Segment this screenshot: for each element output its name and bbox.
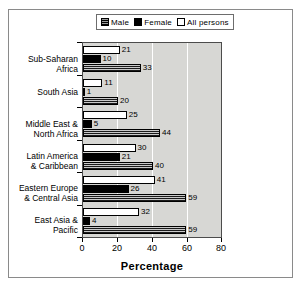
bar-value-male: 33 <box>141 63 152 73</box>
bar-row-female: 26 <box>83 185 221 193</box>
x-axis <box>82 238 222 242</box>
category-label-line: South Asia <box>37 87 78 97</box>
bar-row-female: 4 <box>83 217 221 225</box>
bar-value-male: 44 <box>160 128 171 138</box>
legend-entry-male: Male <box>101 18 129 27</box>
bar-row-male: 33 <box>83 64 221 72</box>
x-axis-tick-label-0: 0 <box>79 243 84 254</box>
bar-value-female: 10 <box>101 54 112 64</box>
x-axis-tick <box>221 238 222 242</box>
bar-male <box>83 162 153 170</box>
category-label-south-asia: South Asia <box>37 87 78 97</box>
bar-row-female: 5 <box>83 120 221 128</box>
category-label-latin-america-caribbean: Latin America & Caribbean <box>27 151 79 171</box>
bar-row-all-persons: 11 <box>83 79 221 87</box>
bar-row-male: 59 <box>83 226 221 234</box>
bar-male <box>83 129 160 137</box>
bar-row-all-persons: 32 <box>83 208 221 216</box>
x-axis-tick <box>82 238 83 242</box>
bar-chart-figure: Male Female All persons Sub-Saharan Afri… <box>0 0 302 288</box>
x-axis-tick-label-80: 80 <box>216 243 226 254</box>
legend-swatch-female-icon <box>134 18 142 26</box>
x-axis-tick <box>152 238 153 242</box>
bar-female <box>83 120 92 128</box>
bar-group-middle-east-north-africa: 25 5 44 <box>83 108 221 140</box>
legend-label-all-persons: All persons <box>187 18 229 27</box>
category-label-line: Pacific <box>35 225 78 235</box>
category-label-line: Latin America <box>27 151 79 161</box>
category-label-middle-east-north-africa: Middle East & North Africa <box>26 119 78 139</box>
bar-value-female: 4 <box>90 216 96 226</box>
bar-female <box>83 153 120 161</box>
bar-row-male: 40 <box>83 162 221 170</box>
bar-value-female: 1 <box>85 87 91 97</box>
category-label-line: Sub-Saharan <box>28 54 78 64</box>
bar-group-east-asia-pacific: 32 4 59 <box>83 205 221 237</box>
bar-row-male: 44 <box>83 129 221 137</box>
bar-value-female: 26 <box>129 184 140 194</box>
bar-value-all-persons: 25 <box>127 110 138 120</box>
bar-all-persons <box>83 144 136 152</box>
category-label-sub-saharan-africa: Sub-Saharan Africa <box>28 54 78 74</box>
bar-row-male: 59 <box>83 194 221 202</box>
category-label-line: Africa <box>28 64 78 74</box>
bar-row-female: 10 <box>83 55 221 63</box>
plot-area: 21 10 33 11 1 20 <box>82 42 222 238</box>
x-axis-tick-label-20: 20 <box>112 243 122 254</box>
bar-all-persons <box>83 176 155 184</box>
bar-value-female: 5 <box>92 119 98 129</box>
category-label-line: East Asia & <box>35 215 78 225</box>
bar-all-persons <box>83 79 102 87</box>
bar-all-persons <box>83 111 127 119</box>
bar-value-all-persons: 41 <box>155 175 166 185</box>
bar-all-persons <box>83 46 120 54</box>
bar-group-south-asia: 11 1 20 <box>83 75 221 108</box>
category-label-eastern-europe-central-asia: Eastern Europe & Central Asia <box>19 183 78 203</box>
bar-value-all-persons: 30 <box>136 143 147 153</box>
chart-legend: Male Female All persons <box>96 14 234 30</box>
legend-swatch-all-persons-icon <box>177 18 185 26</box>
bar-group-eastern-europe-central-asia: 41 26 59 <box>83 173 221 205</box>
category-label-line: Middle East & <box>26 119 78 129</box>
x-axis-tick <box>187 238 188 242</box>
bar-group-latin-america-caribbean: 30 21 40 <box>83 140 221 173</box>
x-axis-tick-label-60: 60 <box>182 243 192 254</box>
bar-male <box>83 226 186 234</box>
category-label-line: North Africa <box>26 129 78 139</box>
legend-label-female: Female <box>144 18 172 27</box>
bar-male <box>83 97 118 105</box>
x-axis-tick <box>117 238 118 242</box>
category-label-line: & Central Asia <box>19 193 78 203</box>
bar-value-all-persons: 11 <box>102 78 112 88</box>
bar-female <box>83 55 101 63</box>
bar-value-all-persons: 32 <box>139 207 150 217</box>
bar-row-all-persons: 25 <box>83 111 221 119</box>
bar-female <box>83 217 90 225</box>
category-label-line: Eastern Europe <box>19 183 78 193</box>
legend-swatch-male-icon <box>101 18 109 26</box>
bar-value-all-persons: 21 <box>120 45 131 55</box>
bar-value-male: 40 <box>153 161 164 171</box>
bar-row-all-persons: 21 <box>83 46 221 54</box>
bar-male <box>83 64 141 72</box>
legend-label-male: Male <box>111 18 129 27</box>
x-axis-title: Percentage <box>82 260 222 272</box>
category-label-east-asia-pacific: East Asia & Pacific <box>35 215 78 235</box>
bar-row-all-persons: 30 <box>83 144 221 152</box>
bar-value-male: 59 <box>186 225 197 235</box>
legend-entry-female: Female <box>134 18 172 27</box>
x-axis-tick-label-40: 40 <box>147 243 157 254</box>
bar-male <box>83 194 186 202</box>
bar-group-sub-saharan-africa: 21 10 33 <box>83 43 221 75</box>
category-label-line: & Caribbean <box>27 161 79 171</box>
bar-row-male: 20 <box>83 97 221 105</box>
bar-row-female: 21 <box>83 153 221 161</box>
bar-row-female: 1 <box>83 88 221 96</box>
legend-entry-all-persons: All persons <box>177 18 229 27</box>
bar-female <box>83 185 129 193</box>
bar-value-male: 20 <box>118 96 129 106</box>
bar-value-male: 59 <box>186 193 197 203</box>
bar-all-persons <box>83 208 139 216</box>
bar-row-all-persons: 41 <box>83 176 221 184</box>
bar-value-female: 21 <box>120 152 131 162</box>
